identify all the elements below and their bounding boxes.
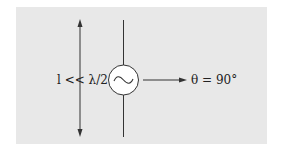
- angle-label: θ = 90°: [191, 73, 237, 87]
- length-label: l << λ/2: [57, 73, 108, 87]
- dipole-diagram: [0, 0, 281, 153]
- radiation-direction-arrow: [143, 78, 187, 83]
- ac-source-icon: [109, 65, 139, 95]
